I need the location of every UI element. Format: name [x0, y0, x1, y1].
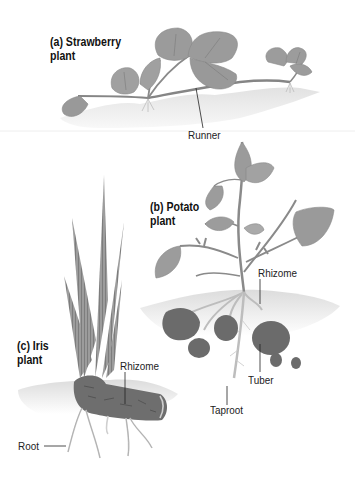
potato-tuber	[270, 353, 282, 367]
potato-tuber	[214, 315, 238, 341]
potato-leaf	[293, 207, 334, 246]
strawberry-leaf	[290, 64, 312, 75]
potato-tuber	[188, 338, 210, 358]
panel-c-title: (c) Iris plant	[17, 339, 49, 367]
potato-leaf	[246, 163, 274, 183]
strawberry-leaf	[266, 48, 288, 66]
panel-a-title-line1: (a) Strawberry	[50, 35, 121, 49]
panel-b-title-line2: plant	[150, 214, 199, 228]
strawberry-leaf	[286, 48, 306, 64]
potato-tuber	[252, 321, 290, 355]
potato-leaf	[155, 246, 181, 278]
strawberry-soil	[60, 88, 320, 128]
label-runner: Runner	[188, 129, 220, 141]
potato-leaf	[244, 224, 264, 235]
label-root: Root	[18, 440, 39, 452]
panel-b-title: (b) Potato plant	[150, 200, 199, 228]
plant-illustration	[0, 0, 355, 484]
label-taproot: Taproot	[210, 404, 243, 416]
label-iris-rhizome: Rhizome	[120, 360, 159, 372]
label-potato-rhizome: Rhizome	[258, 267, 297, 279]
panel-a-title: (a) Strawberry plant	[50, 35, 121, 63]
panel-a-title-line2: plant	[50, 49, 121, 63]
potato-plant	[140, 142, 340, 405]
potato-leaf	[205, 217, 234, 231]
panel-b-title-line1: (b) Potato	[150, 200, 199, 214]
label-tuber: Tuber	[248, 374, 273, 386]
panel-c-title-line1: (c) Iris	[17, 339, 49, 353]
iris-leaf	[95, 175, 108, 378]
potato-leaf	[206, 186, 224, 210]
potato-tuber	[291, 357, 301, 369]
panel-c-title-line2: plant	[17, 353, 49, 367]
